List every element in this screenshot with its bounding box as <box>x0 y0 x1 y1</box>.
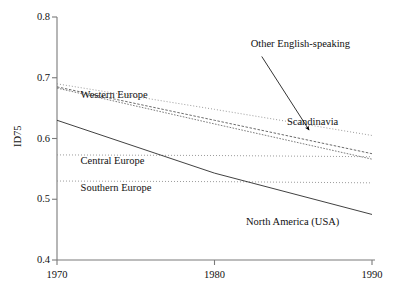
series-label: Other English-speaking <box>251 39 350 50</box>
series-label: North America (USA) <box>246 217 339 228</box>
y-tick-label: 0.8 <box>26 12 50 23</box>
y-tick-label: 0.7 <box>26 73 50 84</box>
y-tick-label: 0.6 <box>26 134 50 145</box>
series-lines <box>57 84 372 215</box>
x-axis-ticks <box>57 260 372 265</box>
series-label: Central Europe <box>81 156 145 167</box>
x-tick-label: 1990 <box>357 270 387 281</box>
chart-figure: ID75 ScandinaviaOther English-speakingWe… <box>0 0 394 295</box>
y-axis-ticks <box>52 17 57 260</box>
x-tick-label: 1980 <box>200 270 230 281</box>
series-line <box>57 120 372 214</box>
series-label: Scandinavia <box>287 117 338 128</box>
series-label: Western Europe <box>81 90 148 101</box>
x-tick-label: 1970 <box>42 270 72 281</box>
series-label: Southern Europe <box>81 183 152 194</box>
y-tick-label: 0.5 <box>26 194 50 205</box>
y-tick-label: 0.4 <box>26 255 50 266</box>
y-axis-title: ID75 <box>13 106 24 166</box>
